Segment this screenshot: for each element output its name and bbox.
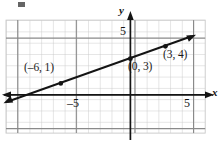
grid-minor (6, 20, 205, 133)
point-label-3-4: (3, 4) (163, 48, 187, 60)
point-label-neg6-1: (–6, 1) (24, 61, 54, 73)
x-tick-label-5: 5 (184, 96, 190, 111)
point-label-0-3: (0, 3) (128, 60, 152, 72)
x-tick-label-neg5: –5 (67, 96, 79, 111)
y-tick-label-5: 5 (120, 24, 126, 39)
x-axis-label: x (212, 86, 218, 98)
coordinate-plane-figure: y x 5 –5 5 (–6, 1) (0, 3) (3, 4) (0, 0, 224, 144)
y-axis-label: y (119, 4, 124, 16)
point-neg6-1 (59, 81, 64, 86)
